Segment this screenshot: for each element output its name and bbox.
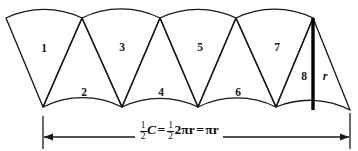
wedge-label-4: 4: [158, 86, 164, 98]
wedge-label-8: 8: [301, 70, 307, 82]
dimension-arrow-right: [340, 134, 349, 141]
wedge-label-2: 2: [81, 86, 87, 98]
figure-canvas: 1 2 3 4 5 6 7 8 r: [0, 0, 358, 151]
wedge-label-5: 5: [197, 41, 203, 53]
wedge-7-outline: [236, 9, 313, 107]
wedge-label-7: 7: [274, 41, 280, 53]
dimension-line-group: [43, 113, 350, 149]
radius-label: r: [323, 69, 328, 83]
wedge-1-outline: [6, 9, 82, 107]
sector-outlines: [6, 9, 350, 110]
wedge-label-6: 6: [235, 86, 241, 98]
sector-rearrangement-figure: 1 2 3 4 5 6 7 8 r 12C=122πr=πr: [0, 0, 358, 151]
dimension-arrow-left: [44, 134, 53, 141]
wedge-5-outline: [160, 9, 236, 107]
wedge-label-3: 3: [119, 41, 125, 53]
wedge-3-outline: [82, 9, 160, 107]
wedge-label-1: 1: [41, 42, 47, 54]
